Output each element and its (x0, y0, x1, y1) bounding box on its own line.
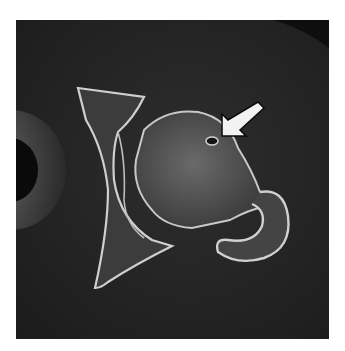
ct-image-panel (16, 20, 329, 339)
ct-scan-graphic (16, 20, 329, 339)
lesion (206, 137, 218, 145)
